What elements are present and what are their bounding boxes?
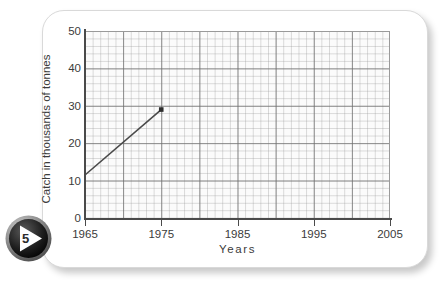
y-tick-label: 0 — [55, 212, 81, 224]
x-tick-label: 2005 — [365, 228, 415, 240]
x-tick-mark — [85, 220, 86, 226]
data-point-marker — [159, 107, 164, 112]
y-axis-ticks: 01020304050 — [53, 31, 81, 218]
x-tick-label: 1985 — [213, 228, 263, 240]
y-axis-title: Catch in thousands of tonnes — [40, 36, 52, 222]
x-tick-mark — [161, 220, 162, 226]
page-number-badge[interactable]: 5 — [4, 214, 53, 263]
x-tick-label: 1995 — [289, 228, 339, 240]
y-tick-label: 40 — [55, 62, 81, 74]
x-tick-mark — [390, 220, 391, 226]
x-tick-mark — [314, 220, 315, 226]
y-tick-label: 20 — [55, 137, 81, 149]
x-tick-label: 1975 — [136, 228, 186, 240]
x-tick-label: 1965 — [60, 228, 110, 240]
y-tick-label: 10 — [55, 175, 81, 187]
badge-number-label: 5 — [4, 214, 53, 263]
y-tick-label: 30 — [55, 100, 81, 112]
y-tick-label: 50 — [55, 25, 81, 37]
x-axis-title: Years — [85, 243, 390, 255]
chart-figure: 01020304050 19651975198519952005 Years C… — [0, 0, 445, 284]
data-series-catch — [85, 31, 390, 218]
x-tick-mark — [238, 220, 239, 226]
series-line — [85, 110, 161, 175]
